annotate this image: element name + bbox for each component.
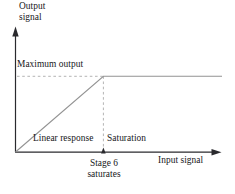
y-axis-arrowhead [12,27,18,37]
maximum-output-label: Maximum output [17,59,83,70]
output-vs-input-transfer-diagram: Output signal Maximum output Linear resp… [0,0,235,194]
saturation-region-label: Saturation [107,133,146,144]
x-axis-label: Input signal [158,155,203,166]
linear-response-region-label: Linear response [33,133,93,144]
y-axis-label: Output signal [19,1,45,22]
saturation-point-marker-icon [101,148,106,154]
y-axis-label-line1: Output [19,1,45,12]
stage-saturates-label-line2: saturates [78,169,130,180]
x-axis-arrowhead [212,149,222,155]
stage-saturates-label: Stage 6 saturates [78,158,130,179]
stage-saturates-label-line1: Stage 6 [78,158,130,169]
y-axis-label-line2: signal [19,12,45,23]
